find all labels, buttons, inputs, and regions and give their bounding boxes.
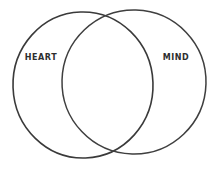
mind-circle-outline	[60, 8, 208, 156]
heart-circle-label: HEART	[25, 53, 58, 62]
venn-diagram: HEART MIND	[0, 0, 217, 169]
mind-circle-label: MIND	[163, 53, 190, 62]
venn-circles-graphic	[0, 0, 217, 169]
arc-fade-overlay-2	[190, 146, 212, 158]
